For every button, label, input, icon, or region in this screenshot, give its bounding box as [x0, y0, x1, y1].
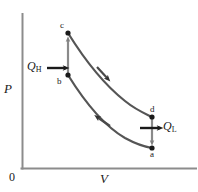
diagram-canvas [0, 0, 197, 192]
state-label-a: a [150, 150, 154, 159]
heat-flow-arrows [47, 68, 160, 128]
cycle-curves [68, 33, 152, 148]
heat-symbol-QL: Q [163, 119, 172, 133]
state-label-c: c [60, 21, 64, 30]
origin-label: 0 [9, 171, 15, 183]
heat-subscript-QH: H [36, 65, 42, 74]
point-d [149, 114, 154, 119]
state-label-d: d [150, 105, 155, 114]
isotherm-c-to-d [68, 33, 152, 117]
heat-subscript-QL: L [172, 125, 177, 134]
arrow-a-to-b [97, 117, 110, 126]
point-c [65, 30, 70, 35]
heat-label-QL: QL [163, 120, 177, 132]
y-axis-label: P [4, 82, 12, 95]
arrow-c-to-d [97, 67, 108, 79]
x-axis-label: V [100, 172, 108, 185]
heat-label-QH: QH [27, 60, 41, 72]
heat-symbol-QH: Q [27, 59, 36, 73]
pv-diagram-figure: P V 0 c b d a QH QL [0, 0, 197, 192]
axis-lines [22, 14, 198, 169]
point-b [65, 72, 70, 77]
state-label-b: b [57, 77, 62, 86]
